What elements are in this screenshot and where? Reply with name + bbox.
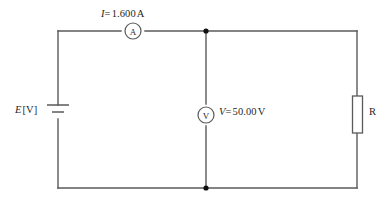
- current-equals: =: [105, 8, 111, 19]
- current-unit: A: [137, 8, 145, 19]
- circuit-diagram-canvas: A V I= 1.600 A E [V] V= 50.00 V R: [0, 0, 392, 209]
- voltage-label: V= 50.00 V: [219, 107, 265, 118]
- current-value: 1.600: [112, 8, 136, 19]
- bottom-junction-dot: [203, 185, 208, 190]
- voltage-value: 50.00: [233, 106, 257, 117]
- emf-unit: [V]: [23, 104, 38, 115]
- circuit-schematic-svg: A V: [0, 0, 392, 209]
- resistor-symbol: R: [369, 106, 376, 117]
- voltmeter-glyph: V: [203, 111, 210, 121]
- top-junction-dot: [203, 28, 208, 33]
- emf-symbol: E: [15, 104, 22, 115]
- emf-label: E [V]: [15, 105, 37, 116]
- voltage-equals: =: [226, 106, 232, 117]
- current-label: I= 1.600 A: [101, 9, 144, 20]
- resistor-label: R: [369, 107, 376, 118]
- ammeter-glyph: A: [130, 27, 137, 37]
- voltage-unit: V: [258, 106, 266, 117]
- resistor-body: [353, 96, 363, 133]
